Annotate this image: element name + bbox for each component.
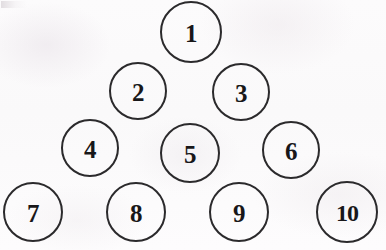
circle-label-8: 8 bbox=[130, 201, 142, 226]
circle-node-2: 2 bbox=[109, 62, 167, 120]
circle-label-7: 7 bbox=[27, 201, 39, 226]
circle-node-3: 3 bbox=[212, 63, 270, 121]
circle-label-10: 10 bbox=[336, 201, 358, 225]
circle-node-10: 10 bbox=[316, 181, 378, 243]
circle-label-3: 3 bbox=[235, 81, 247, 106]
circle-label-6: 6 bbox=[285, 139, 297, 164]
circle-node-7: 7 bbox=[3, 182, 63, 242]
circle-node-9: 9 bbox=[209, 182, 269, 242]
circle-node-4: 4 bbox=[61, 119, 119, 177]
circle-node-8: 8 bbox=[106, 182, 166, 242]
circle-node-1: 1 bbox=[160, 1, 222, 63]
circle-node-5: 5 bbox=[160, 123, 220, 183]
circle-label-4: 4 bbox=[84, 137, 96, 162]
circle-label-2: 2 bbox=[132, 80, 144, 105]
circle-label-1: 1 bbox=[185, 21, 197, 46]
scan-artifact-smudge bbox=[1, 1, 27, 8]
diagram-canvas: 1 2 3 4 5 6 7 8 9 10 bbox=[0, 0, 386, 250]
circle-label-9: 9 bbox=[233, 201, 245, 226]
circle-label-5: 5 bbox=[184, 142, 196, 167]
circle-node-6: 6 bbox=[262, 121, 320, 179]
